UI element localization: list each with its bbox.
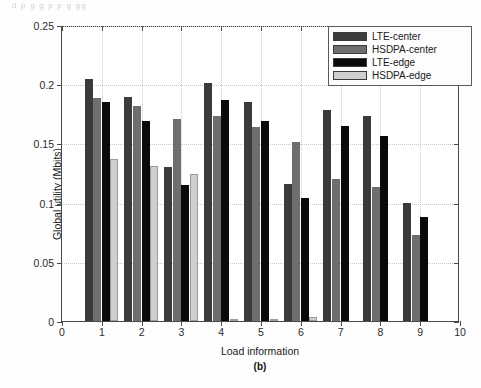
y-tick-mark xyxy=(57,85,62,86)
x-tick-mark-top xyxy=(221,26,222,31)
bar xyxy=(213,116,221,321)
legend-item-label: HSDPA-center xyxy=(372,45,437,55)
legend-item-label: LTE-edge xyxy=(372,58,415,68)
bar xyxy=(363,116,371,321)
y-tick-mark-right xyxy=(454,322,459,323)
x-tick-mark-top xyxy=(301,26,302,31)
legend-swatch-icon xyxy=(333,58,367,67)
bar xyxy=(261,121,269,321)
legend-item: LTE-center xyxy=(333,30,467,43)
x-tick-mark-top xyxy=(62,26,63,31)
x-tick-label: 8 xyxy=(377,326,383,338)
y-tick-label: 0.2 xyxy=(39,79,54,91)
bar xyxy=(332,179,340,321)
chart-legend: LTE-centerHSDPA-centerLTE-edgeHSDPA-edge xyxy=(328,26,472,86)
bar xyxy=(173,119,181,321)
y-tick-mark xyxy=(57,144,62,145)
bar xyxy=(284,184,292,321)
legend-item-label: HSDPA-edge xyxy=(372,71,431,81)
y-tick-label: 0.15 xyxy=(34,138,54,150)
legend-swatch-icon xyxy=(333,71,367,80)
bar xyxy=(403,203,411,321)
x-tick-label: 7 xyxy=(338,326,344,338)
x-tick-label: 6 xyxy=(298,326,304,338)
bar xyxy=(181,185,189,321)
x-tick-mark-top xyxy=(142,26,143,31)
y-tick-mark-right xyxy=(454,144,459,145)
x-tick-mark-top xyxy=(181,26,182,31)
y-tick-label: 0.05 xyxy=(34,257,54,269)
figure-panel: d p g g p p g gg Global utility (Mbits) … xyxy=(0,0,481,388)
x-tick-label: 2 xyxy=(139,326,145,338)
figure-caption: (b) xyxy=(61,361,459,372)
x-tick-mark-top xyxy=(261,26,262,31)
bar xyxy=(190,174,198,321)
bar xyxy=(124,97,132,321)
bar xyxy=(142,121,150,321)
bar xyxy=(204,83,212,321)
y-tick-label: 0.1 xyxy=(39,198,54,210)
y-tick-label: 0.25 xyxy=(34,20,54,32)
bar xyxy=(380,136,388,321)
bar xyxy=(309,317,317,321)
bar xyxy=(341,126,349,321)
legend-item: HSDPA-edge xyxy=(333,69,467,82)
x-tick-label: 0 xyxy=(59,326,65,338)
bar xyxy=(372,187,380,321)
x-tick-label: 5 xyxy=(258,326,264,338)
y-tick-mark xyxy=(57,204,62,205)
bar xyxy=(164,167,172,321)
bar xyxy=(244,102,252,321)
bar xyxy=(252,127,260,321)
bar xyxy=(270,319,278,321)
bar xyxy=(301,198,309,321)
bar xyxy=(110,159,118,321)
x-axis-title: Load information xyxy=(61,345,459,357)
bar xyxy=(412,235,420,321)
bar xyxy=(230,319,238,321)
bar xyxy=(420,217,428,321)
cropped-text-remnant: d p g g p p g gg xyxy=(12,1,312,11)
x-tick-label: 4 xyxy=(218,326,224,338)
bar xyxy=(85,79,93,321)
x-tick-label: 9 xyxy=(417,326,423,338)
bar xyxy=(292,142,300,321)
x-tick-label: 3 xyxy=(178,326,184,338)
bar xyxy=(323,110,331,321)
legend-swatch-icon xyxy=(333,32,367,41)
x-tick-mark-top xyxy=(102,26,103,31)
x-tick-label: 1 xyxy=(99,326,105,338)
x-tick-label: 10 xyxy=(454,326,466,338)
bar xyxy=(150,166,158,321)
y-tick-mark xyxy=(57,263,62,264)
legend-item: LTE-edge xyxy=(333,56,467,69)
y-tick-label: 0 xyxy=(48,316,54,328)
bar xyxy=(102,102,110,321)
bar xyxy=(221,100,229,321)
bar xyxy=(133,106,141,321)
y-tick-mark-right xyxy=(454,204,459,205)
legend-item-label: LTE-center xyxy=(372,32,421,42)
legend-item: HSDPA-center xyxy=(333,43,467,56)
y-tick-mark-right xyxy=(454,263,459,264)
legend-swatch-icon xyxy=(333,45,367,54)
bar xyxy=(93,98,101,321)
